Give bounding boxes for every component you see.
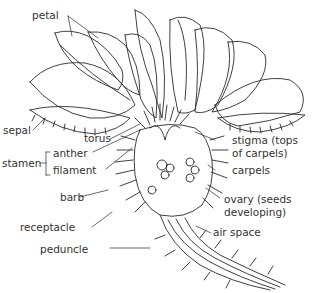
label-ovary-line2: developing): [224, 206, 286, 218]
label-peduncle: peduncle: [40, 243, 88, 255]
label-air-space: air space: [213, 226, 261, 238]
label-anther: anther: [53, 147, 88, 159]
label-barb: barb: [60, 191, 84, 203]
label-ovary-line1: ovary (seeds: [224, 193, 292, 205]
label-petal: petal: [32, 9, 59, 21]
leader-lines: [33, 16, 220, 248]
label-stigma-line2: of carpels): [232, 147, 288, 159]
label-carpels: carpels: [232, 164, 270, 176]
sepals: [30, 106, 305, 135]
label-filament: filament: [53, 164, 96, 176]
label-receptacle: receptacle: [20, 221, 75, 233]
label-sepal: sepal: [3, 124, 31, 136]
flower-body: [115, 104, 228, 216]
label-torus: torus: [84, 132, 111, 144]
label-stamen: stamen: [2, 157, 41, 169]
label-stigma-line1: stigma (tops: [232, 134, 298, 146]
